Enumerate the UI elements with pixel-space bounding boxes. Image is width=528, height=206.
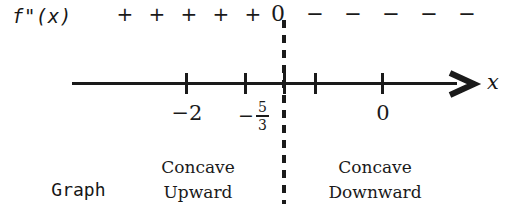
fraction-minus-sign: − [238, 106, 254, 127]
sign-minus-5: − [458, 4, 476, 24]
sign-minus-4: − [420, 4, 438, 24]
sign-plus-3: + [180, 4, 198, 24]
concavity-right-line1: Concave [300, 155, 450, 180]
sign-minus-2: − [344, 4, 362, 24]
sign-plus-4: + [212, 4, 230, 24]
axis-arrow-icon [448, 70, 482, 98]
graph-of-row-label: Graph of f(x) [8, 149, 127, 206]
sign-plus-1: + [116, 4, 134, 24]
axis-tick-5 [381, 73, 384, 94]
sign-minus-3: − [382, 4, 400, 24]
second-derivative-row-label: f"(x) [12, 5, 72, 27]
concavity-right-line2: Downward [300, 180, 450, 205]
sign-plus-2: + [148, 4, 166, 24]
concavity-sign-chart: f"(x) + + + + + 0 − − − − − x −2 − 5 3 0… [0, 0, 528, 206]
axis-tick-2 [244, 73, 247, 94]
axis-tick-label-neg-two: −2 [160, 101, 214, 125]
fraction-denominator: 3 [257, 117, 268, 132]
number-line-axis [72, 82, 457, 85]
sign-minus-1: − [306, 4, 324, 24]
axis-tick-label-zero: 0 [356, 101, 410, 125]
concavity-left-line1: Concave [132, 155, 264, 180]
critical-value-divider [282, 20, 286, 204]
graph-of-line1: Graph [51, 179, 105, 200]
axis-tick-label-neg-five-thirds: − 5 3 [238, 100, 269, 132]
x-axis-label: x [487, 70, 499, 94]
sign-plus-5: + [244, 4, 262, 24]
axis-tick-4 [314, 73, 317, 94]
fraction: 5 3 [256, 100, 269, 132]
concavity-left-line2: Upward [132, 180, 264, 205]
axis-tick-1 [185, 73, 188, 94]
concavity-right-interval: Concave Downward [300, 155, 450, 205]
fraction-numerator: 5 [257, 100, 268, 115]
concavity-left-interval: Concave Upward [132, 155, 264, 205]
